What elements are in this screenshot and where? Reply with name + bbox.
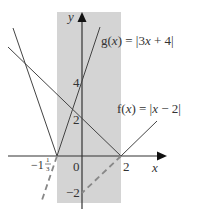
x-tick-label-2: 2 xyxy=(123,159,130,174)
g-left-branch xyxy=(13,28,57,156)
g-function-label: g(x) = |3x + 4| xyxy=(101,33,174,48)
x-tick-label-neg-one-third-num: 1 xyxy=(46,156,50,164)
x-axis-arrow-icon xyxy=(157,152,167,161)
y-axis-label: y xyxy=(66,9,74,24)
y-tick-label-2: 2 xyxy=(73,112,80,127)
f-function-label: f(x) = |x − 2| xyxy=(117,101,181,116)
graph: y x 0 −1 1 3 2 4 2 −2 g(x) = |3x + 4| f(… xyxy=(0,0,201,209)
y-tick-label-4: 4 xyxy=(73,75,80,90)
x-tick-label-neg-one-third-den: 3 xyxy=(46,165,50,173)
x-tick-label-neg-one-third-whole: −1 xyxy=(31,158,44,172)
f-right-branch xyxy=(121,121,157,156)
origin-label: 0 xyxy=(73,159,80,174)
x-axis-label: x xyxy=(151,160,158,175)
y-tick-label-neg-2: −2 xyxy=(66,185,80,200)
